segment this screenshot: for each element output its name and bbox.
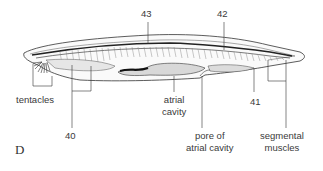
panel-label: D [15, 142, 24, 158]
label-atrial-cavity: atrial cavity [162, 94, 186, 118]
lancelet-diagram: 43 42 tentacles atrial cavity 41 40 pore… [0, 0, 323, 171]
label-40: 40 [65, 130, 76, 142]
label-tentacles: tentacles [16, 94, 54, 106]
label-pore-of-atrial-cavity: pore of atrial cavity [186, 130, 234, 154]
label-42: 42 [217, 8, 228, 20]
label-41: 41 [250, 96, 261, 108]
label-43: 43 [141, 8, 152, 20]
label-segmental-muscles: segmental muscles [260, 130, 304, 154]
